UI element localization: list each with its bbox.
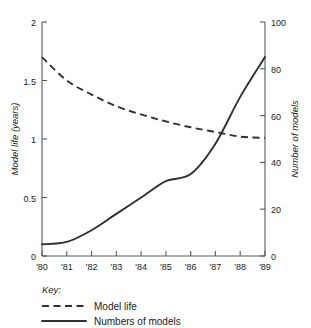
left-tick-label-1-5: 1.5 [23, 77, 36, 87]
x-tick-label-80: '80 [36, 262, 48, 272]
x-tick-label-86: '86 [185, 262, 197, 272]
right-tick-label-40: 40 [271, 158, 281, 168]
left-tick-label-2: 2 [31, 18, 36, 28]
x-tick-label-85: '85 [160, 262, 172, 272]
right-tick-label-20: 20 [271, 205, 281, 215]
series-model-life [42, 57, 265, 138]
right-axis-title: Number of models [289, 100, 300, 178]
x-tick-label-88: '88 [234, 262, 246, 272]
key-label-numbers-of-models: Numbers of models [94, 316, 181, 327]
x-axis-ticks [42, 251, 265, 256]
right-tick-label-60: 60 [271, 112, 281, 122]
x-tick-label-89: '89 [259, 262, 271, 272]
key-title: Key: [42, 284, 61, 295]
x-tick-label-84: '84 [135, 262, 147, 272]
line-chart: 2 1.5 1 0.5 0 100 80 60 40 20 0 '80 '81 … [0, 0, 311, 328]
right-tick-label-100: 100 [271, 18, 286, 28]
x-tick-label-83: '83 [110, 262, 122, 272]
x-tick-label-82: '82 [86, 262, 98, 272]
left-axis-title: Model life (years) [9, 103, 20, 176]
x-tick-label-81: '81 [61, 262, 73, 272]
left-tick-label-1: 1 [31, 135, 36, 145]
key-label-model-life: Model life [94, 301, 137, 312]
right-tick-label-0: 0 [271, 252, 276, 262]
left-tick-label-0-5: 0.5 [23, 194, 36, 204]
series-numbers-of-models [42, 57, 265, 244]
x-tick-label-87: '87 [210, 262, 222, 272]
right-tick-label-80: 80 [271, 65, 281, 75]
left-tick-label-0: 0 [31, 252, 36, 262]
chart-figure: 2 1.5 1 0.5 0 100 80 60 40 20 0 '80 '81 … [0, 0, 311, 328]
